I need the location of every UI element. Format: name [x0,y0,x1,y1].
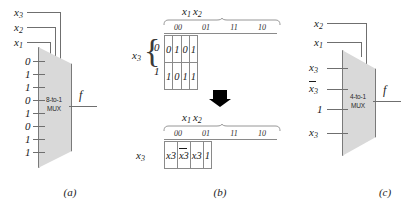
panel-b-reduced-cell-11: x3 [190,142,203,169]
panel-c-select-label-x1: x1 [314,37,323,50]
panel-c-input-0: x3 [309,62,318,75]
panel-b-kmap-col-header-10: 10 [248,23,276,32]
panel-c-select-label-x2: x2 [314,18,323,31]
panel-a-select-label-x3: x3 [14,7,23,20]
down-arrow-stem [213,90,227,99]
panel-b-reduced-header-rule [164,139,277,140]
panel-b-kmap-cell-r1c0: 1 [165,63,173,90]
panel-c-output-label: f [383,83,386,98]
panel-b-reduced-col-header-00: 00 [164,129,192,138]
panel-b-kmap-col-header-11: 11 [220,23,248,32]
table-row: 0 1 0 1 [165,36,198,63]
panel-a-input-3: 0 [25,95,31,106]
panel-b-kmap-col-headers: 00 01 11 10 [164,23,276,32]
panel-c-input-wire-3 [327,133,348,134]
panel-c-select-wire-x2-v [366,23,367,68]
panel-b-kmap-cell-r0c3: 1 [189,36,197,63]
panel-b-kmap-cell-r0c1: 1 [173,36,181,63]
panel-c-output-wire [373,101,401,102]
panel-a-select-wire-x3-v [60,12,61,64]
panel-b-reduced-cell-01: x3 [177,142,190,169]
panel-c-select-wire-x1-h [327,42,361,43]
caption-c: (c) [365,186,405,198]
panel-a-input-wire-1 [33,74,45,75]
panel-b-kmap-col-header-01: 01 [192,23,220,32]
panel-a-input-wire-3 [33,100,45,101]
panel-c-select-wire-x1-v [361,42,362,57]
panel-a-output-wire [69,106,97,107]
caption-a: (a) [50,186,90,198]
panel-a-input-1: 1 [25,69,31,80]
panel-c-input-wire-1 [327,89,348,90]
panel-c-input-wire-0 [327,68,348,69]
panel-c: x2 x1 4-to-1 MUX x3 x3 [290,0,419,216]
panel-b-kmap-row-header-0: 0 [154,42,160,53]
panel-c-input-wire-2 [327,109,348,110]
panel-a-output-label: f [79,88,82,103]
down-arrow-head [209,99,231,107]
panel-a-select-label-x1: x1 [14,37,23,50]
panel-b-kmap-cell-r1c3: 1 [189,63,197,90]
panel-b-kmap-cell-r1c1: 0 [173,63,181,90]
panel-a-input-2: 1 [25,82,31,93]
panel-a-mux-label-line2: MUX [38,105,70,113]
panel-b-kmap-header-rule [164,33,277,34]
panel-a-input-wire-0 [33,61,45,62]
table-row: x3 x3 x3 1 [165,142,212,169]
panel-a-input-wire-6 [33,139,45,140]
panel-a-select-wire-x3-h [27,12,60,13]
panel-b-reduced-grid: x3 x3 x3 1 [164,141,212,169]
panel-a-input-0: 0 [25,56,31,67]
panel-a-input-wire-5 [33,126,45,127]
panel-a-input-7: 1 [25,147,31,158]
caption-b: (b) [200,186,240,198]
panel-a-input-6: 1 [25,134,31,145]
panel-b-kmap-cell-r0c2: 0 [181,36,189,63]
panel-c-select-wire-x2-h [327,23,366,24]
panel-b-reduced-col-header-10: 10 [248,129,276,138]
panel-c-input-1: x3 [309,83,318,96]
panel-b-kmap-cell-r1c2: 1 [181,63,189,90]
panel-a-input-wire-2 [33,87,45,88]
panel-a-select-wire-x2-h [27,27,55,28]
panel-b-reduced-cell-10: 1 [203,142,211,169]
panel-a-input-5: 0 [25,121,31,132]
panel-b-reduced-row-var: x3 [136,150,145,163]
table-row: 1 0 1 1 [165,63,198,90]
panel-a-input-wire-4 [33,113,45,114]
panel-a-input-4: 1 [25,108,31,119]
panel-a: x3 x2 x1 8-to-1 MUX 0 1 1 0 [0,0,130,216]
panel-b-reduced-cell-00: x3 [165,142,178,169]
panel-b-kmap-col-header-00: 00 [164,23,192,32]
panel-b-kmap-row-var: x3 [132,50,141,63]
panel-c-input-2: 1 [317,104,323,115]
panel-b: x1x2 00 01 11 10 x3 { 0 1 [130,0,290,216]
figure-root: x3 x2 x1 8-to-1 MUX 0 1 1 0 [0,0,419,216]
down-arrow-icon [209,90,231,107]
panel-a-select-wire-x1-h [27,42,50,43]
panel-c-mux-label-line1: 4-to-1 [342,93,374,101]
panel-c-input-3: x3 [309,127,318,140]
panel-b-reduced-col-header-01: 01 [192,129,220,138]
panel-b-kmap-grid: 0 1 0 1 1 0 1 1 [164,35,198,90]
panel-b-kmap-cell-r0c0: 0 [165,36,173,63]
panel-b-reduced-col-header-11: 11 [220,129,248,138]
panel-b-kmap-row-header-1: 1 [154,66,160,77]
panel-a-input-wire-7 [33,152,45,153]
panel-a-select-label-x2: x2 [14,22,23,35]
panel-b-reduced-col-headers: 00 01 11 10 [164,129,276,138]
